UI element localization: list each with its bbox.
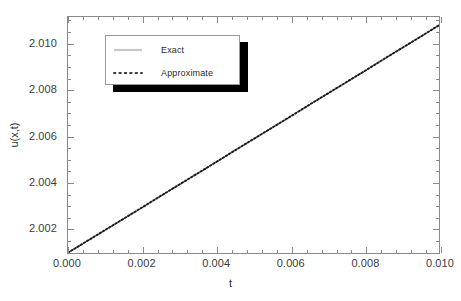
axis-tick: [68, 44, 74, 45]
axis-tick: [396, 17, 397, 20]
axis-tick: [158, 250, 159, 253]
axis-tick: [277, 17, 278, 20]
axis-tick: [68, 79, 71, 80]
axis-tick: [292, 247, 293, 253]
chart-figure: 0.0000.0020.0040.0060.0080.010 2.0022.00…: [0, 0, 461, 301]
legend-box: Exact Approximate: [105, 35, 240, 85]
axis-tick: [68, 195, 71, 196]
axis-tick: [436, 125, 439, 126]
legend-label-approximate: Approximate: [161, 68, 213, 78]
axis-tick: [436, 241, 439, 242]
axis-tick: [351, 17, 352, 20]
x-axis-label: t: [0, 277, 461, 289]
axis-tick: [113, 17, 114, 20]
axis-tick: [366, 247, 367, 253]
axis-tick: [441, 17, 442, 23]
axis-tick: [172, 17, 173, 20]
x-tick-label: 0.004: [202, 257, 230, 269]
axis-tick: [433, 44, 439, 45]
axis-tick: [366, 17, 367, 23]
axis-tick: [172, 250, 173, 253]
axis-tick: [232, 17, 233, 20]
axis-tick: [441, 247, 442, 253]
axis-tick: [433, 183, 439, 184]
y-tick-label: 2.002: [29, 222, 57, 234]
axis-tick: [436, 20, 439, 21]
axis-tick: [217, 17, 218, 23]
axis-tick: [68, 125, 71, 126]
axis-tick: [98, 250, 99, 253]
axis-tick: [68, 206, 71, 207]
axis-tick: [277, 250, 278, 253]
axis-tick: [322, 17, 323, 20]
axis-tick: [128, 17, 129, 20]
axis-tick: [68, 241, 71, 242]
axis-tick: [337, 17, 338, 20]
axis-tick: [68, 218, 71, 219]
axis-tick: [436, 171, 439, 172]
legend-label-exact: Exact: [161, 45, 184, 55]
axis-tick: [68, 67, 71, 68]
axis-tick: [83, 17, 84, 20]
x-tick-label: 0.010: [426, 257, 454, 269]
axis-tick: [436, 79, 439, 80]
axis-tick: [436, 102, 439, 103]
axis-tick: [307, 17, 308, 20]
axis-tick: [68, 253, 71, 254]
axis-tick: [436, 32, 439, 33]
y-tick-label: 2.008: [29, 83, 57, 95]
x-tick-label: 0.008: [351, 257, 379, 269]
axis-tick: [351, 250, 352, 253]
axis-tick: [436, 160, 439, 161]
axis-tick: [113, 250, 114, 253]
axis-tick: [426, 250, 427, 253]
legend-entry-approximate: Approximate: [106, 61, 239, 85]
axis-tick: [143, 247, 144, 253]
axis-tick: [202, 17, 203, 20]
axis-tick: [292, 17, 293, 23]
axis-tick: [98, 17, 99, 20]
axis-tick: [436, 113, 439, 114]
axis-tick: [68, 160, 71, 161]
axis-tick: [68, 102, 71, 103]
axis-tick: [411, 17, 412, 20]
axis-tick: [143, 17, 144, 23]
axis-tick: [128, 250, 129, 253]
axis-tick: [436, 148, 439, 149]
axis-tick: [217, 247, 218, 253]
x-tick-label: 0.002: [128, 257, 156, 269]
axis-tick: [68, 183, 74, 184]
y-tick-label: 2.004: [29, 176, 57, 188]
axis-tick: [436, 55, 439, 56]
axis-tick: [381, 17, 382, 20]
axis-tick: [68, 55, 71, 56]
axis-tick: [68, 148, 71, 149]
y-tick-label: 2.010: [29, 37, 57, 49]
axis-tick: [337, 250, 338, 253]
axis-tick: [381, 250, 382, 253]
axis-tick: [411, 250, 412, 253]
axis-tick: [68, 90, 74, 91]
axis-tick: [433, 229, 439, 230]
axis-tick: [262, 17, 263, 20]
axis-tick: [68, 137, 74, 138]
axis-tick: [158, 17, 159, 20]
axis-tick: [426, 17, 427, 20]
axis-tick: [247, 17, 248, 20]
axis-tick: [436, 195, 439, 196]
axis-tick: [436, 218, 439, 219]
axis-tick: [436, 253, 439, 254]
axis-tick: [322, 250, 323, 253]
axis-tick: [307, 250, 308, 253]
axis-tick: [68, 171, 71, 172]
axis-tick: [202, 250, 203, 253]
legend-entry-exact: Exact: [106, 38, 239, 62]
axis-tick: [433, 137, 439, 138]
axis-tick: [68, 32, 71, 33]
axis-tick: [247, 250, 248, 253]
axis-tick: [68, 113, 71, 114]
x-tick-label: 0.000: [53, 257, 81, 269]
axis-tick: [436, 206, 439, 207]
y-tick-label: 2.006: [29, 130, 57, 142]
axis-tick: [232, 250, 233, 253]
